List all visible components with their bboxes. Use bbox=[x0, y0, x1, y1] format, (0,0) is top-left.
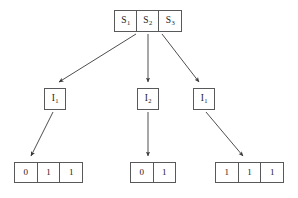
mid-node-mid-cell: I2 bbox=[138, 89, 158, 109]
root-cell-1-base: S bbox=[143, 16, 148, 26]
tree-diagram: S1 S2 S3 I1 I2 I1 0 1 1 0 1 1 1 1 bbox=[0, 0, 298, 198]
leaf-right-bit-1: 1 bbox=[239, 163, 262, 182]
mid-node-mid-sub: 2 bbox=[148, 98, 151, 105]
leaf-left-bit-2: 1 bbox=[60, 163, 82, 182]
mid-node-left: I1 bbox=[44, 88, 66, 110]
mid-node-right-cell: I1 bbox=[194, 89, 214, 109]
root-cell-2: S3 bbox=[159, 11, 181, 31]
root-cell-2-base: S bbox=[166, 16, 171, 26]
leaf-mid: 0 1 bbox=[130, 162, 176, 183]
mid-node-left-sub: 1 bbox=[55, 98, 58, 105]
root-cell-0-sub: 1 bbox=[127, 20, 130, 27]
leaf-right-bit-0: 1 bbox=[216, 163, 239, 182]
root-cell-1-sub: 2 bbox=[149, 20, 152, 27]
leaf-mid-bit-0: 0 bbox=[131, 163, 154, 182]
edge-root-to-mid-left bbox=[59, 34, 136, 82]
leaf-left: 0 1 1 bbox=[14, 162, 83, 183]
leaf-mid-bit-1: 1 bbox=[154, 163, 176, 182]
edge-mid-right-to-leaf-right bbox=[206, 112, 243, 156]
leaf-right-bit-2: 1 bbox=[261, 163, 283, 182]
edge-root-to-mid-right bbox=[162, 34, 199, 82]
mid-node-right-sub: 1 bbox=[204, 98, 207, 105]
root-cell-0-base: S bbox=[121, 16, 126, 26]
edge-mid-left-to-leaf-left bbox=[31, 112, 53, 156]
mid-node-left-cell: I1 bbox=[45, 89, 65, 109]
root-node: S1 S2 S3 bbox=[114, 10, 182, 32]
mid-node-mid: I2 bbox=[137, 88, 159, 110]
root-cell-1: S2 bbox=[137, 11, 159, 31]
root-cell-2-sub: 3 bbox=[171, 20, 174, 27]
leaf-left-bit-0: 0 bbox=[15, 163, 38, 182]
leaf-right: 1 1 1 bbox=[215, 162, 284, 183]
root-cell-0: S1 bbox=[115, 11, 137, 31]
leaf-left-bit-1: 1 bbox=[38, 163, 61, 182]
mid-node-right: I1 bbox=[193, 88, 215, 110]
